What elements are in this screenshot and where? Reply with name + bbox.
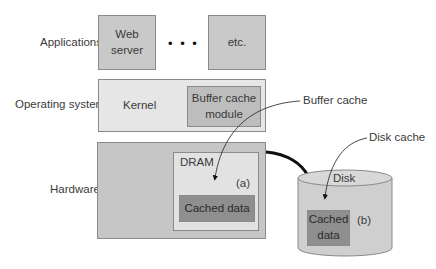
disk-label: Disk (333, 172, 355, 184)
disk-cached-data-label: Cached data (309, 212, 349, 243)
disk-marker-b: (b) (357, 214, 371, 226)
buffer-cache-arrow (215, 101, 300, 178)
hardware-disk-connector (266, 152, 308, 176)
buffer-cache-callout: Buffer cache (303, 94, 367, 106)
disk-cached-data-box: Cached data (307, 210, 350, 246)
disk-cache-callout: Disk cache (369, 131, 425, 143)
